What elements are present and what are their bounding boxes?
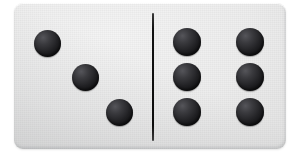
image-canvas	[0, 0, 298, 157]
pip-right-3	[173, 63, 201, 91]
pip-right-1	[173, 28, 201, 56]
pip-left-2	[72, 64, 99, 91]
pip-left-1	[34, 30, 61, 57]
pip-left-3	[106, 99, 133, 126]
pip-right-5	[173, 98, 201, 126]
pip-right-4	[236, 63, 264, 91]
center-divider-line	[152, 13, 154, 141]
pip-right-6	[236, 98, 264, 126]
pip-right-2	[236, 28, 264, 56]
